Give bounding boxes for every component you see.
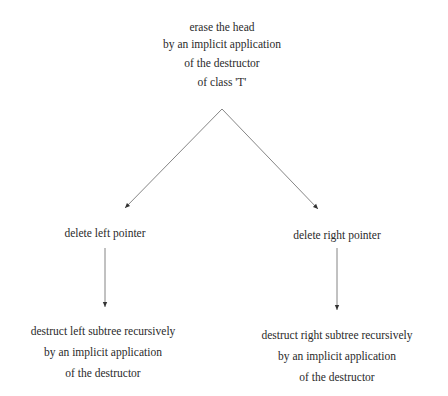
right-subtree-line-1: destruct right subtree recursively [261,329,412,341]
root-line-4: of class 'T' [198,76,247,88]
arrow-root-to-left [125,109,222,208]
right-subtree-line-2: by an implicit application [278,350,396,362]
root-line-3: of the destructor [184,57,259,69]
right-subtree-line-3: of the destructor [299,371,374,383]
left-subtree-line-1: destruct left subtree recursively [31,325,176,337]
right-branch-label: delete right pointer [293,229,381,241]
left-subtree-line-3: of the destructor [65,367,140,379]
left-subtree-line-2: by an implicit application [44,346,162,358]
left-branch-label: delete left pointer [64,227,145,239]
arrow-root-to-right [222,109,318,209]
root-line-1: erase the head [189,21,254,33]
root-line-2: by an implicit application [163,38,281,50]
